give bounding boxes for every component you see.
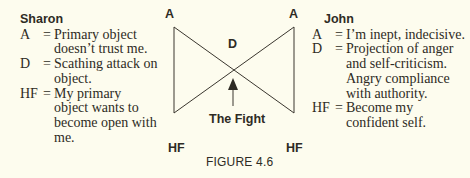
label-a-right: A xyxy=(289,7,298,21)
label-a-left: A xyxy=(165,7,174,21)
legend-item-a: A = I’m inept, indecisive. xyxy=(312,28,470,43)
legend-item-hf: HF = Become my confident self. xyxy=(312,101,470,130)
legend-title: John xyxy=(312,12,470,27)
legend-item-d: D = Projection of anger and self-critici… xyxy=(312,42,470,101)
label-hf-right: HF xyxy=(286,141,303,155)
the-fight-label: The Fight xyxy=(209,112,265,126)
label-d-center: D xyxy=(228,37,237,51)
figure-caption: FIGURE 4.6 xyxy=(206,155,273,169)
john-legend: John A = I’m inept, indecisive. D = Proj… xyxy=(312,12,470,131)
arrow-up-icon xyxy=(228,78,238,90)
label-hf-left: HF xyxy=(168,141,185,155)
